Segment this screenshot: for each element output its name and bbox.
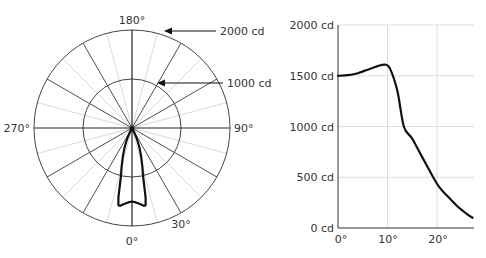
arrow-icon [157, 80, 165, 87]
cartesian-chart: 2000 cd 1500 cd 1000 cd 500 cd 0 cd 0° 1… [289, 19, 474, 246]
label-270: 270° [4, 122, 31, 135]
figure: 180° 90° 270° 0° 30° 2000 cd 1000 cd 200… [0, 0, 486, 258]
callout-2000: 2000 cd [164, 25, 265, 38]
label-30: 30° [171, 218, 191, 231]
x-tick-10: 10° [378, 233, 398, 246]
y-tick-0: 0 cd [310, 222, 334, 235]
callout-1000: 1000 cd [157, 77, 272, 90]
y-tick-1000: 1000 cd [289, 121, 334, 134]
callout-1000-label: 1000 cd [227, 77, 272, 90]
x-tick-0: 0° [335, 233, 348, 246]
x-tick-20: 20° [428, 233, 448, 246]
y-tick-1500: 1500 cd [289, 70, 334, 83]
y-tick-2000: 2000 cd [289, 19, 334, 32]
callout-2000-label: 2000 cd [220, 25, 265, 38]
grid-lines [338, 25, 474, 228]
polar-center-dot [130, 126, 134, 130]
label-0: 0° [126, 235, 139, 248]
arrow-icon [164, 28, 172, 35]
intensity-curve [338, 65, 473, 218]
polar-chart: 180° 90° 270° 0° 30° 2000 cd 1000 cd [4, 14, 272, 248]
label-180: 180° [119, 14, 146, 27]
label-90: 90° [234, 122, 254, 135]
y-tick-500: 500 cd [296, 171, 334, 184]
